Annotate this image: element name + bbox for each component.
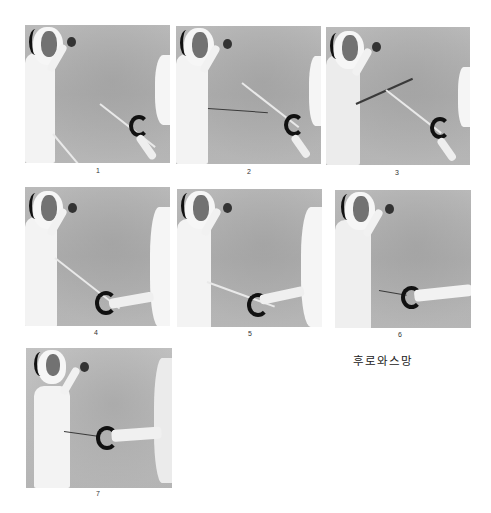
photo-panel-6 — [335, 190, 471, 328]
mask-rim — [330, 33, 343, 59]
raised-fist — [372, 42, 381, 52]
mask-rim — [34, 352, 47, 376]
photo-panel-7 — [26, 348, 172, 488]
panel-number-1: 1 — [88, 167, 108, 174]
mask-mesh — [342, 35, 358, 61]
left-fencer — [34, 386, 70, 488]
bell-guard — [284, 114, 304, 136]
mask-rim — [29, 29, 42, 55]
mask-mesh — [46, 354, 60, 376]
panel-number-2: 2 — [239, 168, 259, 175]
panel-number-4: 4 — [86, 329, 106, 336]
photo-panel-3 — [326, 27, 470, 165]
mask-mesh — [192, 32, 208, 58]
bell-guard — [129, 115, 149, 137]
raised-fist — [385, 204, 394, 214]
raised-fist — [80, 362, 89, 372]
opponent-fencer — [154, 358, 172, 483]
panel-number-7: 7 — [88, 490, 108, 497]
raised-fist — [223, 39, 232, 49]
opponent-fencer — [309, 56, 321, 126]
photo-panel-1 — [25, 25, 170, 163]
photo-panel-5 — [177, 189, 322, 327]
opponent-fencer — [458, 67, 470, 127]
photo-panel-4 — [25, 187, 170, 326]
bell-guard — [430, 117, 450, 139]
mask-mesh — [193, 195, 209, 221]
raised-fist — [223, 203, 232, 213]
mask-rim — [29, 193, 42, 219]
panel-number-5: 5 — [240, 330, 260, 337]
opponent-fencer — [301, 207, 322, 327]
opponent-fencer — [155, 55, 170, 125]
mask-rim — [181, 193, 194, 219]
figure-caption: 후로와스망 — [353, 352, 413, 368]
mask-rim — [180, 30, 193, 56]
panel-number-6: 6 — [390, 331, 410, 338]
panel-number-3: 3 — [387, 169, 407, 176]
opponent-fencer — [150, 207, 170, 326]
photo-panel-2 — [176, 26, 321, 164]
mask-rim — [341, 194, 354, 220]
raised-fist — [68, 203, 77, 213]
raised-fist — [67, 37, 76, 47]
mask-mesh — [353, 196, 369, 222]
